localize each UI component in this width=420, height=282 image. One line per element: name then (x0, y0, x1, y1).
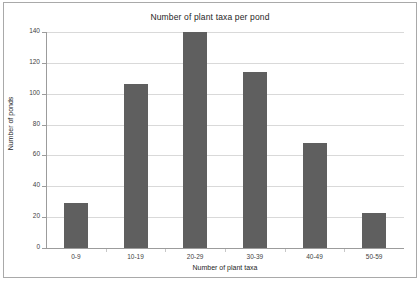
y-axis-tick-label: 140 (2, 27, 40, 34)
bar (64, 203, 88, 248)
x-axis-tick-label: 0-9 (46, 253, 106, 260)
y-axis-tick-label-wrap: 80 (0, 120, 40, 130)
y-axis-tick-label-wrap: 140 (0, 27, 40, 37)
chart-title: Number of plant taxa per pond (0, 12, 420, 22)
x-axis-tick-label: 40-49 (285, 253, 345, 260)
y-axis-tick-label-wrap: 40 (0, 181, 40, 191)
chart-screenshot: Number of plant taxa per pond Number of … (0, 0, 420, 282)
y-axis-tick-label: 120 (2, 58, 40, 65)
y-axis-tick-label: 0 (2, 243, 40, 250)
x-axis-tick-mark (225, 249, 226, 252)
y-axis-tick-label-wrap: 0 (0, 243, 40, 253)
bar (124, 84, 148, 248)
bar (303, 143, 327, 248)
y-axis-tick-label-wrap: 100 (0, 89, 40, 99)
x-axis-tick-mark (285, 249, 286, 252)
y-axis-tick-label: 40 (2, 181, 40, 188)
x-axis-tick-label: 50-59 (344, 253, 404, 260)
x-axis-tick-mark (344, 249, 345, 252)
plot-area (46, 32, 404, 248)
x-axis-tick-label: 20-29 (165, 253, 225, 260)
y-axis-tick-label: 20 (2, 212, 40, 219)
x-axis-title: Number of plant taxa (46, 264, 404, 271)
y-axis-tick-label: 80 (2, 120, 40, 127)
x-axis-tick-mark (165, 249, 166, 252)
y-axis-tick-label: 100 (2, 89, 40, 96)
y-axis-tick-label-wrap: 60 (0, 150, 40, 160)
y-axis-tick-label-wrap: 120 (0, 58, 40, 68)
bar (243, 72, 267, 248)
x-axis-tick-label: 10-19 (106, 253, 166, 260)
bar (183, 32, 207, 248)
bar (362, 213, 386, 248)
y-axis-tick-label: 60 (2, 150, 40, 157)
x-axis-tick-mark (106, 249, 107, 252)
x-axis-tick-label: 30-39 (225, 253, 285, 260)
y-axis-tick-label-wrap: 20 (0, 212, 40, 222)
